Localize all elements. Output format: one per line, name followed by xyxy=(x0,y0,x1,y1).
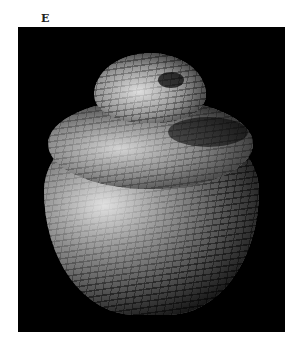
shadow-band xyxy=(168,117,248,147)
basket-lid-shading xyxy=(94,53,206,123)
basket-photo xyxy=(18,27,285,332)
panel-label: E xyxy=(41,12,49,25)
lid-center xyxy=(158,72,184,88)
